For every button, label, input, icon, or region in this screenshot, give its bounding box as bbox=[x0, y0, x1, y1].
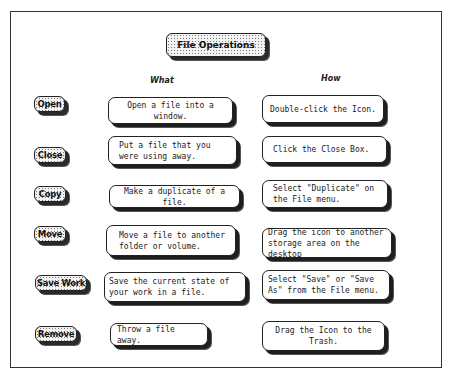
how-box-move: Drag the icon to another storage area on… bbox=[262, 228, 392, 258]
what-box-open: Open a file into a window. bbox=[108, 97, 233, 124]
how-box-save-work: Select "Save" or "Save As" from the File… bbox=[262, 270, 390, 300]
what-box-copy: Make a duplicate of a file. bbox=[109, 185, 240, 208]
what-box-save-work: Save the current state of your work in a… bbox=[104, 272, 246, 302]
title-button[interactable]: File Operations bbox=[166, 33, 266, 57]
what-box-remove: Throw a file away. bbox=[110, 323, 208, 346]
column-label-how: How bbox=[321, 74, 341, 83]
operation-button-save-work[interactable]: Save Work bbox=[35, 275, 87, 291]
what-box-move: Move a file to another folder or volume. bbox=[106, 225, 236, 256]
operation-button-move[interactable]: Move bbox=[34, 226, 66, 242]
how-box-remove: Drag the Icon to the Trash. bbox=[262, 321, 385, 351]
operation-button-close[interactable]: Close bbox=[34, 147, 66, 163]
column-label-what: What bbox=[150, 76, 174, 85]
operation-button-copy[interactable]: Copy bbox=[34, 186, 66, 202]
operation-button-open[interactable]: Open bbox=[34, 96, 65, 112]
how-box-open: Double-click the Icon. bbox=[262, 95, 384, 123]
operation-button-remove[interactable]: Remove bbox=[35, 326, 77, 342]
how-box-close: Click the Close Box. bbox=[262, 136, 387, 163]
what-box-close: Put a file that you were using away. bbox=[108, 136, 237, 165]
how-box-copy: Select "Duplicate" on the File menu. bbox=[262, 180, 388, 208]
